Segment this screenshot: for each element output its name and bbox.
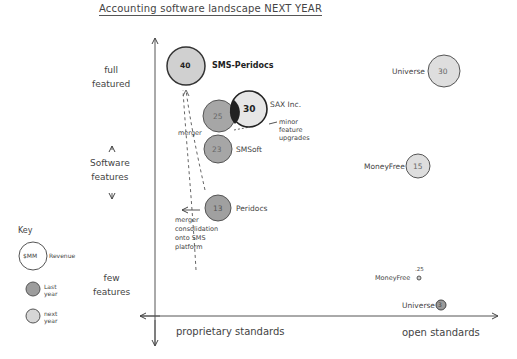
value-sax-last: 25 [213, 112, 223, 121]
value-universe-next: 30 [438, 67, 448, 76]
label-sms-peridocs: SMS-Peridocs [212, 61, 274, 70]
key-next-year-label: next year [44, 310, 57, 324]
label-moneyfree-next: MoneyFree [364, 162, 405, 171]
key-last-year-label: Last year [44, 283, 57, 297]
annotation-minor-feature-upgrades: minor feature upgrades [279, 118, 310, 142]
label-smsoft: SMSoft [236, 145, 262, 154]
bubble-moneyfree-small [417, 276, 421, 280]
y-label-middle: Software features [90, 156, 130, 184]
key-last-year-icon [26, 282, 40, 296]
y-label-top: full featured [92, 63, 130, 91]
annotation-merger-consolidation: merger consolidation onto SMS platform [175, 216, 218, 252]
key-revenue-sample: $MM [23, 252, 37, 259]
label-universe-last: Universe [402, 301, 435, 310]
merger-line [186, 90, 205, 190]
label-universe-next: Universe [392, 67, 425, 76]
value-sax-inc: 30 [243, 104, 256, 114]
x-label-left: proprietary standards [176, 326, 285, 337]
value-universe-last: 3 [438, 301, 442, 308]
value-moneyfree-small: .25 [415, 266, 424, 272]
x-label-right: open standards [402, 327, 480, 338]
value-moneyfree-next: 15 [413, 162, 423, 171]
label-peridocs: Peridocs [236, 204, 267, 213]
y-label-bottom: few features [93, 271, 130, 299]
label-sax-inc: SAX Inc. [270, 100, 301, 109]
key-revenue-label: Revenue [49, 252, 75, 259]
annotation-merger: merger [178, 129, 202, 138]
value-sms-peridocs: 40 [180, 61, 190, 70]
value-smsoft: 23 [212, 145, 222, 154]
key-next-year-icon [26, 309, 40, 323]
key-title: Key [18, 226, 33, 235]
value-peridocs: 13 [213, 204, 223, 213]
label-moneyfree-small: MoneyFree [375, 274, 410, 282]
